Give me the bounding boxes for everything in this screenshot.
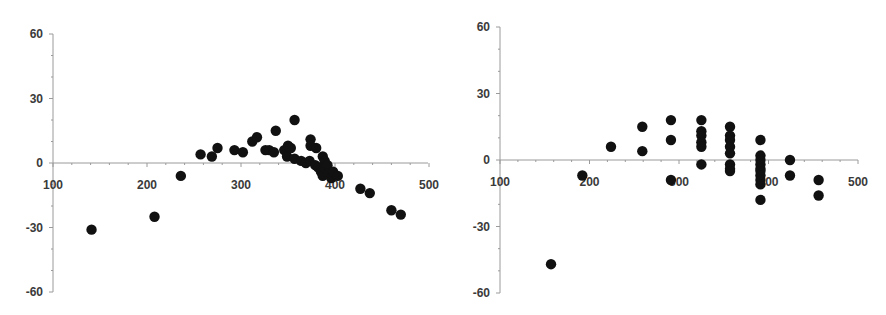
data-point <box>637 122 647 132</box>
x-tick-label: 200 <box>137 178 157 192</box>
data-point <box>755 179 765 189</box>
data-point <box>755 195 765 205</box>
y-tick-label: -60 <box>473 286 491 300</box>
data-point <box>212 143 222 153</box>
data-point <box>725 122 735 132</box>
data-point <box>606 142 616 152</box>
x-tick-label: 500 <box>848 175 868 189</box>
x-tick-label: 300 <box>231 178 251 192</box>
data-point <box>396 209 406 219</box>
data-point <box>577 170 587 180</box>
data-point <box>176 171 186 181</box>
data-point <box>286 143 296 153</box>
data-point <box>666 175 676 185</box>
data-point <box>365 188 375 198</box>
data-point <box>725 166 735 176</box>
data-point <box>813 175 823 185</box>
data-point <box>785 170 795 180</box>
data-point <box>785 155 795 165</box>
data-point <box>637 146 647 156</box>
data-point <box>86 224 96 234</box>
y-tick-label: 30 <box>477 87 491 101</box>
data-point <box>271 126 281 136</box>
data-point <box>696 159 706 169</box>
data-point <box>666 135 676 145</box>
data-point <box>725 148 735 158</box>
data-point <box>696 115 706 125</box>
data-point <box>238 147 248 157</box>
y-tick-label: 60 <box>477 20 491 34</box>
y-tick-label: 60 <box>30 27 44 41</box>
data-point <box>207 151 217 161</box>
data-point <box>289 115 299 125</box>
data-point <box>386 205 396 215</box>
data-point <box>195 149 205 159</box>
y-tick-label: -30 <box>473 220 491 234</box>
x-tick-label: 100 <box>490 175 510 189</box>
y-tick-label: 0 <box>483 153 490 167</box>
data-point <box>666 115 676 125</box>
y-tick-label: -30 <box>26 221 44 235</box>
data-point <box>311 143 321 153</box>
scatter-plot-left: 60300-30-60100200300400500 <box>0 0 443 315</box>
y-tick-label: 30 <box>30 92 44 106</box>
scatter-plot-left-canvas: 60300-30-60100200300400500 <box>0 0 443 315</box>
data-point <box>333 171 343 181</box>
data-point <box>546 259 556 269</box>
y-tick-label: 0 <box>36 156 43 170</box>
data-point <box>755 135 765 145</box>
data-point <box>813 190 823 200</box>
x-tick-label: 100 <box>43 178 63 192</box>
x-tick-label: 500 <box>419 178 439 192</box>
y-tick-label: -60 <box>26 285 44 299</box>
data-point <box>696 142 706 152</box>
scatter-plot-right-canvas: 60300-30-60100200300400500 <box>443 0 886 315</box>
data-point <box>149 212 159 222</box>
data-point <box>355 184 365 194</box>
data-point <box>252 132 262 142</box>
scatter-plot-right: 60300-30-60100200300400500 <box>443 0 886 315</box>
data-point <box>269 147 279 157</box>
